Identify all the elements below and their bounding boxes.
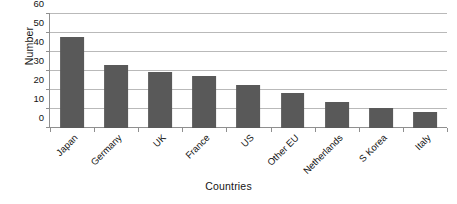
y-tick-label: 60 — [33, 0, 44, 9]
y-tick-label: 50 — [33, 17, 44, 28]
bars-layer — [50, 14, 447, 128]
bar-slot — [226, 14, 270, 128]
x-label-slot: Italy — [403, 130, 447, 178]
bar-netherlands[interactable] — [325, 102, 349, 128]
bar-chart-figure: Number 0102030405060 JapanGermanyUKFranc… — [0, 0, 457, 204]
x-tick-label: Germany — [89, 132, 124, 167]
bar-other-eu[interactable] — [281, 93, 305, 128]
plot-frame: 0102030405060 — [50, 14, 447, 128]
x-label-slot: Japan — [50, 130, 94, 178]
bar-slot — [315, 14, 359, 128]
bar-slot — [94, 14, 138, 128]
bar-slot — [138, 14, 182, 128]
y-tick-label: 30 — [33, 55, 44, 66]
x-axis-labels: JapanGermanyUKFranceUSOther EUNetherland… — [50, 130, 447, 178]
x-tick-label: UK — [151, 132, 168, 149]
x-label-slot: US — [226, 130, 270, 178]
x-tick-label: France — [183, 132, 212, 161]
x-tick-label: Other EU — [265, 132, 301, 168]
bar-italy[interactable] — [413, 112, 437, 128]
bar-germany[interactable] — [104, 65, 128, 128]
plot-area: 0102030405060 — [50, 14, 447, 128]
bar-uk[interactable] — [148, 72, 172, 128]
bar-slot — [182, 14, 226, 128]
x-tick-label: Japan — [54, 132, 80, 158]
bar-japan[interactable] — [60, 37, 84, 128]
x-tick-label: Italy — [413, 132, 433, 152]
y-tick-label: 40 — [33, 36, 44, 47]
x-label-slot: S Korea — [359, 130, 403, 178]
x-tick-label: US — [239, 132, 256, 149]
bar-us[interactable] — [237, 85, 261, 128]
bar-s-korea[interactable] — [369, 108, 393, 128]
bar-slot — [271, 14, 315, 128]
bar-france[interactable] — [192, 76, 216, 128]
x-label-slot: UK — [138, 130, 182, 178]
x-label-slot: Germany — [94, 130, 138, 178]
bar-slot — [50, 14, 94, 128]
x-axis-title: Countries — [0, 180, 457, 192]
y-tick-label: 20 — [33, 74, 44, 85]
x-tick-mark — [447, 128, 448, 132]
y-tick-label: 0 — [39, 112, 44, 123]
y-tick-label: 10 — [33, 93, 44, 104]
x-tick-label: S Korea — [357, 132, 389, 164]
bar-slot — [403, 14, 447, 128]
x-label-slot: Netherlands — [315, 130, 359, 178]
x-label-slot: France — [182, 130, 226, 178]
bar-slot — [359, 14, 403, 128]
